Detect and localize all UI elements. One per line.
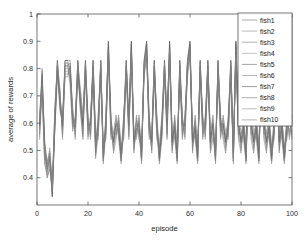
x-axis-title: episode [151,224,178,233]
legend-label-fish6: fish6 [260,72,275,79]
y-axis-title: average of rewards [6,77,15,142]
x-tick-label: 0 [35,209,39,218]
legend-label-fish9: fish9 [260,105,275,112]
x-tick-label: 80 [237,209,245,218]
y-tick-label: 0.6 [23,119,33,128]
x-tick-label: 100 [286,209,298,218]
x-tick-label: 40 [135,209,143,218]
y-tick-label: 1 [29,10,33,19]
y-tick-label: 0.4 [23,173,33,182]
y-tick-label: 0.8 [23,64,33,73]
legend-label-fish2: fish2 [260,28,275,35]
y-tick-label: 0.9 [23,37,33,46]
legend-label-fish4: fish4 [260,50,275,57]
x-tick-label: 20 [84,209,92,218]
legend-label-fish5: fish5 [260,61,275,68]
legend-label-fish8: fish8 [260,94,275,101]
chart-figure: 0204060801000.40.50.60.70.80.91 episodea… [0,0,308,246]
y-tick-label: 0.7 [23,91,33,100]
line-chart: 0204060801000.40.50.60.70.80.91 episodea… [0,0,308,246]
chart-legend[interactable]: fish1fish2fish3fish4fish5fish6fish7fish8… [238,13,292,126]
x-tick-label: 60 [186,209,194,218]
legend-label-fish10: fish10 [260,116,279,123]
legend-label-fish3: fish3 [260,39,275,46]
legend-label-fish7: fish7 [260,83,275,90]
y-tick-label: 0.5 [23,146,33,155]
legend-label-fish1: fish1 [260,17,275,24]
